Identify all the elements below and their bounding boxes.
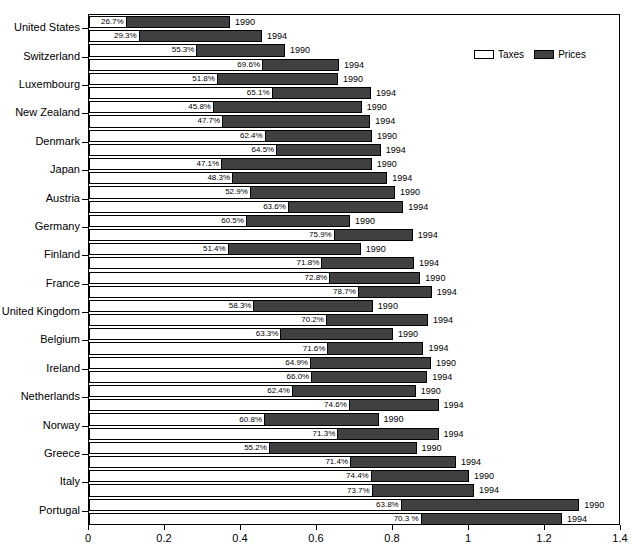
bar-year-label: 1994: [456, 457, 481, 468]
bar-row: 73.7%1994: [89, 483, 621, 497]
bar-segment-prices: [350, 400, 438, 410]
bar-year-label: 1994: [428, 315, 453, 326]
stacked-bar: 69.6%: [89, 59, 339, 71]
y-axis-tick: [82, 170, 88, 171]
bar-row: 74.4%1990: [89, 469, 621, 483]
bar-value-label: 58.3%: [229, 302, 254, 310]
legend-swatch-taxes: [474, 50, 494, 59]
bar-segment-prices: [335, 230, 412, 240]
bar-year-label: 1994: [381, 145, 406, 156]
stacked-bar: 60.5%: [89, 215, 350, 227]
bar-value-label: 70.2%: [301, 316, 326, 324]
bar-row: 71.6%1994: [89, 341, 621, 355]
bar-segment-prices: [222, 159, 371, 169]
bar-value-label: 47.7%: [197, 117, 222, 125]
y-axis-label: Norway: [43, 419, 80, 431]
stacked-bar: 71.8%: [89, 257, 414, 269]
bar-value-label: 48.3%: [207, 174, 232, 182]
bar-value-label: 70.3 %: [394, 515, 421, 523]
bar-row: 62.4%1990: [89, 384, 621, 398]
bar-segment-taxes: 63.6%: [90, 202, 289, 212]
bar-year-label: 1990: [431, 358, 456, 369]
bar-year-label: 1994: [423, 343, 448, 354]
bar-segment-taxes: 63.3%: [90, 329, 281, 339]
x-axis-tick-label: 0.2: [156, 532, 171, 545]
stacked-bar: 72.8%: [89, 272, 420, 284]
stacked-bar: 45.8%: [89, 101, 362, 113]
bar-segment-taxes: 45.8%: [90, 102, 214, 112]
bar-segment-taxes: 26.7%: [90, 17, 127, 27]
bar-row: 55.2%1990: [89, 441, 621, 455]
bar-value-label: 69.6%: [237, 61, 262, 69]
bar-segment-taxes: 71.3%: [90, 429, 338, 439]
bar-segment-taxes: 51.8%: [90, 74, 218, 84]
bar-segment-taxes: 71.8%: [90, 258, 322, 268]
x-axis-tick-label: 0.8: [384, 532, 399, 545]
bar-row: 26.7%1990: [89, 15, 621, 29]
bar-row: 62.4%1990: [89, 129, 621, 143]
y-axis-label: United Kingdom: [2, 305, 80, 317]
stacked-bar: 60.8%: [89, 413, 379, 425]
legend-label-prices: Prices: [558, 49, 586, 60]
bar-segment-taxes: 52.9%: [90, 187, 251, 197]
y-axis-tick: [82, 28, 88, 29]
bar-year-label: 1990: [285, 45, 310, 56]
bar-segment-prices: [263, 60, 338, 70]
bar-segment-prices: [214, 102, 361, 112]
bar-value-label: 78.7%: [333, 288, 358, 296]
bar-segment-prices: [373, 485, 473, 495]
stacked-bar: 74.6%: [89, 399, 439, 411]
x-axis-tick: [164, 525, 165, 530]
y-axis-tick: [82, 340, 88, 341]
bar-segment-taxes: 78.7%: [90, 287, 359, 297]
bar-value-label: 52.9%: [225, 188, 250, 196]
bar-value-label: 66.0%: [287, 373, 312, 381]
stacked-bar: 70.2%: [89, 314, 428, 326]
bar-segment-prices: [266, 131, 371, 141]
bar-segment-prices: [338, 429, 437, 439]
bar-row: 60.5%1990: [89, 214, 621, 228]
bar-year-label: 1994: [339, 60, 364, 71]
bar-segment-taxes: 71.6%: [90, 343, 328, 353]
y-axis-label: Denmark: [35, 135, 80, 147]
y-axis-tick: [82, 199, 88, 200]
x-axis-tick-label: 0.6: [308, 532, 323, 545]
bar-year-label: 1990: [469, 471, 494, 482]
bar-row: 64.5%1994: [89, 143, 621, 157]
y-axis-label: Luxembourg: [19, 78, 80, 90]
bar-value-label: 65.1%: [247, 89, 272, 97]
bar-value-label: 71.4%: [325, 458, 350, 466]
bar-row: 66.0%1994: [89, 370, 621, 384]
bar-row: 58.3%1990: [89, 299, 621, 313]
bar-segment-prices: [422, 514, 562, 524]
bar-segment-prices: [251, 187, 394, 197]
y-axis-tick: [82, 454, 88, 455]
bar-row: 71.4%1994: [89, 455, 621, 469]
y-axis-labels: United StatesSwitzerlandLuxembourgNew Ze…: [0, 14, 84, 525]
bar-value-label: 72.8%: [305, 274, 330, 282]
bar-value-label: 62.4%: [267, 387, 292, 395]
bar-value-label: 60.5%: [221, 217, 246, 225]
stacked-bar: 47.1%: [89, 158, 372, 170]
x-axis-tick: [316, 525, 317, 530]
bar-segment-prices: [140, 31, 261, 41]
bar-value-label: 64.9%: [285, 359, 310, 367]
bar-segment-prices: [372, 471, 468, 481]
legend-item-taxes: Taxes: [474, 49, 524, 60]
x-axis-tick: [544, 525, 545, 530]
bar-segment-prices: [293, 386, 415, 396]
bar-segment-prices: [247, 216, 349, 226]
x-axis-tick-label: 1.4: [612, 532, 627, 545]
bar-value-label: 63.8%: [376, 501, 401, 509]
bar-value-label: 64.5%: [252, 146, 277, 154]
plot-area: 26.7%199029.3%199455.3%199069.6%199451.8…: [88, 14, 620, 525]
bar-row: 52.9%1990: [89, 185, 621, 199]
bar-segment-taxes: 73.7%: [90, 485, 373, 495]
x-axis: 00.20.40.60.811.21.4: [88, 525, 620, 555]
stacked-bar: 58.3%: [89, 300, 373, 312]
bar-value-label: 63.3%: [256, 330, 281, 338]
bar-row: 47.7%1994: [89, 114, 621, 128]
stacked-bar: 47.7%: [89, 115, 370, 127]
stacked-bar: 48.3%: [89, 172, 387, 184]
bar-year-label: 1994: [370, 116, 395, 127]
